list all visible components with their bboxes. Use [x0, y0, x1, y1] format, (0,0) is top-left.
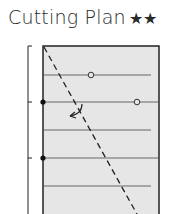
- filled-dot-icon: [40, 99, 45, 104]
- open-circle-icon: [134, 99, 140, 105]
- open-circle-icon: [88, 72, 94, 78]
- dimension-bracket: [28, 46, 32, 214]
- filled-dot-icon: [40, 155, 45, 160]
- cutting-diagram: [0, 0, 183, 214]
